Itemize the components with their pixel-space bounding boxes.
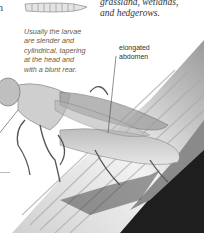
caption-line: Usually the larvae [24,27,90,36]
leader-line-left [0,110,18,135]
larva-drawing [24,1,88,13]
habitat-line: grassland, wetlands, [100,0,204,8]
caption-line: with a blunt rear. [24,65,90,74]
caption-line: at the head and [24,55,90,64]
label-line: elongated [119,44,179,53]
habitat-text: grassland, wetlands, and hedgerows. [100,0,204,18]
caption-line: cylindrical, tapering [24,46,90,55]
caption-line: are slender and [24,36,90,45]
larva-caption: Usually the larvae are slender and cylin… [24,27,90,74]
label-line: abdomen [119,53,179,62]
divider-rule [0,172,10,173]
partial-text: n [0,2,3,13]
habitat-line: and hedgerows. [100,8,204,19]
abdomen-label: elongated abdomen [119,44,179,61]
